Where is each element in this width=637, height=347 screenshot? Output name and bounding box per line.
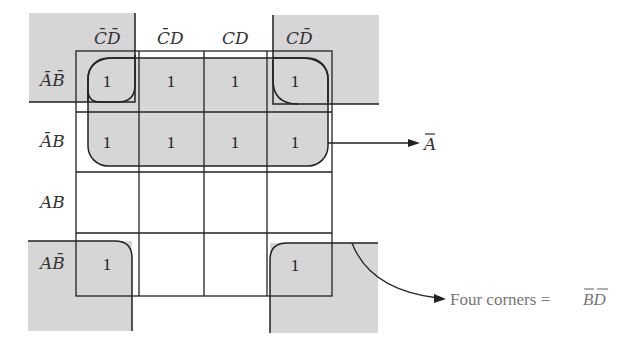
cell-0-1: 1 [167, 72, 176, 91]
a-bar-term: A [422, 134, 436, 154]
shade-bottom-right [270, 243, 378, 333]
row-header-2: AB [38, 192, 65, 212]
four-corners-annotation: Four corners = BD [352, 243, 608, 309]
karnaugh-map-diagram: C̄D̄ C̄D CD CD̄ ĀB̄ ĀB AB AB̄ 1 1 1 1 1 … [0, 0, 637, 347]
cell-3-3: 1 [291, 256, 300, 275]
cell-3-0: 1 [103, 255, 112, 274]
a-bar-annotation: A [328, 134, 436, 154]
arrow-right-icon [434, 294, 446, 303]
cell-0-0: 1 [103, 72, 112, 91]
cell-0-2: 1 [231, 72, 240, 91]
row-header-1: ĀB [38, 131, 65, 151]
cell-0-3: 1 [291, 72, 300, 91]
arrow-right-icon [408, 139, 420, 147]
four-corners-label: Four corners = [450, 290, 550, 309]
cell-1-0: 1 [103, 133, 112, 152]
col-header-2: CD [222, 28, 249, 48]
cell-1-3: 1 [291, 133, 300, 152]
row-header-3: AB̄ [38, 252, 65, 273]
col-header-1: C̄D [157, 27, 184, 48]
four-corners-term: BD [583, 290, 606, 309]
cell-1-1: 1 [167, 133, 176, 152]
row-header-0: ĀB̄ [38, 69, 65, 90]
col-header-3: CD̄ [286, 27, 313, 48]
col-header-0: C̄D̄ [94, 27, 121, 48]
cell-1-2: 1 [231, 133, 240, 152]
